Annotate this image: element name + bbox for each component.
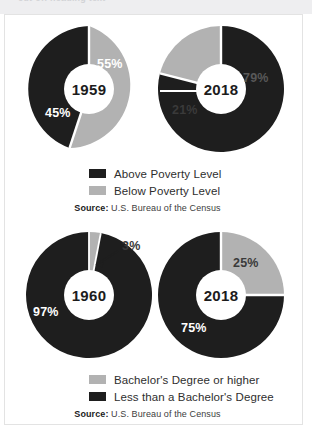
poverty-legend: Above Poverty Level Below Poverty Level xyxy=(5,165,303,199)
legend-swatch-less-than-bachelors xyxy=(89,392,106,401)
donut-hole xyxy=(64,64,114,114)
education-legend: Bachelor's Degree or higher Less than a … xyxy=(5,371,303,405)
poverty-source: Source: U.S. Bureau of the Census xyxy=(5,203,303,213)
donut-1959-svg xyxy=(23,23,155,155)
legend-label-above-poverty: Above Poverty Level xyxy=(114,168,221,180)
donut-chart-1960: 1960 97% 3% xyxy=(23,229,155,361)
source-word: Source: xyxy=(74,409,108,419)
slice-label-2018edu-25: 25% xyxy=(233,256,259,270)
donut-2018-education-svg xyxy=(155,229,287,361)
legend-label-bachelors-higher: Bachelor's Degree or higher xyxy=(114,374,260,386)
source-text: U.S. Bureau of the Census xyxy=(109,409,221,419)
donut-hole xyxy=(196,270,246,320)
slice-label-1959-55: 55% xyxy=(97,57,123,71)
cut-off-heading-text: cut-off heading text xyxy=(18,0,298,3)
poverty-charts-row: 1959 55% 45% 2018 79% xyxy=(5,23,303,163)
education-charts-row: 1960 97% 3% 2018 25% 75% xyxy=(5,229,303,369)
legend-item: Above Poverty Level xyxy=(5,165,303,182)
source-word: Source: xyxy=(74,203,108,213)
poverty-panel: 1959 55% 45% 2018 79% xyxy=(5,15,303,221)
donut-chart-2018-poverty: 2018 79% 21% xyxy=(155,23,287,155)
slice-label-1959-45: 45% xyxy=(45,106,71,120)
donut-hole xyxy=(196,64,246,114)
slice-label-2018-21: 21% xyxy=(172,103,198,117)
legend-swatch-above-poverty xyxy=(89,169,106,178)
slice-label-2018edu-75: 75% xyxy=(181,321,207,335)
donut-chart-1959: 1959 55% 45% xyxy=(23,23,155,155)
education-panel: 1960 97% 3% 2018 25% 75% xyxy=(5,221,303,425)
infographic-card: 1959 55% 45% 2018 79% xyxy=(4,14,303,425)
cut-off-heading-strip: cut-off heading text xyxy=(0,0,312,14)
donut-2018-poverty-svg xyxy=(155,23,287,155)
legend-item: Bachelor's Degree or higher xyxy=(5,371,303,388)
legend-label-below-poverty: Below Poverty Level xyxy=(114,185,220,197)
legend-item: Less than a Bachelor's Degree xyxy=(5,388,303,405)
donut-chart-2018-education: 2018 25% 75% xyxy=(155,229,287,361)
slice-label-1960-97: 97% xyxy=(33,305,59,319)
slice-label-1960-3-callout: 3% xyxy=(122,239,140,253)
legend-item: Below Poverty Level xyxy=(5,182,303,199)
legend-swatch-below-poverty xyxy=(89,186,106,195)
slice-label-2018-79: 79% xyxy=(243,71,269,85)
education-source: Source: U.S. Bureau of the Census xyxy=(5,409,303,419)
legend-swatch-bachelors-higher xyxy=(89,375,106,384)
legend-label-less-than-bachelors: Less than a Bachelor's Degree xyxy=(114,391,274,403)
donut-hole xyxy=(64,270,114,320)
source-text: U.S. Bureau of the Census xyxy=(109,203,221,213)
